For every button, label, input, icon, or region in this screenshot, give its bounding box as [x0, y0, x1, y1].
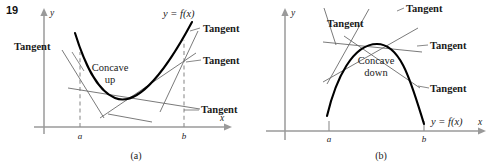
panel-b-region-label-line2: down [364, 67, 388, 78]
panel-b-tick-label-b: b [422, 134, 427, 144]
panel-a-tangent-label-mid-right: Tangent [203, 55, 240, 66]
panel-b-tangent-label-low-right: Tangent [430, 83, 467, 94]
panel-b-x-axis-label: x [477, 117, 483, 127]
panel-a-y-axis-label: y [49, 8, 55, 18]
panel-b-tangent-label-mid-right: Tangent [430, 40, 467, 51]
panel-a-x-axis-arrow [224, 123, 232, 130]
panel-a-caption: (a) [130, 150, 141, 162]
problem-number: 19 [6, 4, 18, 16]
panel-a-x-axis-label: x [219, 113, 225, 123]
figure-container: 19 [0, 0, 492, 166]
panel-b: Tangent Tangent Tangent Tangent Concave … [266, 3, 486, 162]
panel-b-tick-label-a: a [327, 134, 332, 144]
panel-a-tangent-label-top-right: Tangent [203, 23, 240, 34]
panel-b-tangent-label-top-right: Tangent [406, 3, 443, 14]
panel-b-y-axis-arrow [281, 8, 288, 16]
panel-a-curve-label: y = f(x) [162, 8, 195, 20]
panel-b-curve-label: y = f(x) [430, 116, 463, 128]
panel-a-leader-3 [186, 60, 201, 62]
panel-a-region-label-line1: Concave [92, 62, 129, 73]
panel-b-leader-2 [417, 45, 428, 46]
panel-b-tangent-label-left: Tangent [327, 18, 364, 29]
panel-b-x-axis-arrow [478, 127, 486, 134]
panel-a-y-axis-arrow [40, 8, 47, 16]
panel-b-leader-1 [397, 8, 404, 11]
panel-a-leader-2 [190, 28, 200, 31]
panel-a-curve [75, 22, 192, 99]
panel-a-tick-label-a: a [78, 131, 83, 141]
figure-svg: Tangent Tangent Tangent Tangent y = f(x)… [0, 0, 492, 166]
panel-a-tangent-line-2 [108, 114, 152, 122]
panel-a-region-label-line2: up [105, 74, 116, 85]
panel-b-caption: (b) [375, 150, 387, 162]
panel-b-region-label-line1: Concave [358, 55, 395, 66]
panel-a-tangent-line-3 [68, 88, 200, 109]
panel-a-tick-label-b: b [182, 131, 187, 141]
panel-b-y-axis-label: y [290, 8, 296, 18]
panel-a: Tangent Tangent Tangent Tangent y = f(x)… [14, 8, 240, 162]
panel-a-tangent-label-left: Tangent [14, 41, 51, 52]
